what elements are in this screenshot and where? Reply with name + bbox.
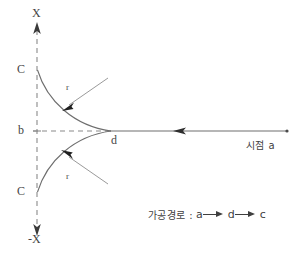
caption-node-d-group: d	[228, 208, 257, 221]
point-label-d: d	[111, 134, 117, 146]
lower-radius-leader-line	[69, 157, 108, 184]
caption-arrow-a-to-d-icon	[203, 211, 225, 219]
figure-canvas: X -X C b C d r r 시점 a 가공경로 : a d c	[0, 0, 304, 258]
caption-prefix: 가공경로 :	[148, 207, 193, 222]
start-point-label: 시점 a	[246, 141, 275, 151]
axis-label-negative-x: -X	[28, 233, 41, 245]
radius-label-lower: r	[66, 172, 69, 181]
caption-arrow-d-to-c-icon	[235, 211, 257, 219]
axis-label-positive-x: X	[32, 7, 41, 19]
upper-radius-leader-line	[69, 78, 108, 105]
lower-arc-path	[38, 131, 112, 192]
lower-radius-arrowhead-icon	[61, 150, 73, 159]
caption-node-d: d	[228, 208, 235, 221]
start-point-dot	[285, 129, 288, 132]
machining-path-caption: 가공경로 : a d c	[148, 207, 266, 222]
upper-arc-path	[38, 70, 112, 131]
caption-node-c: c	[260, 208, 266, 221]
caption-node-a-group: a	[196, 208, 225, 221]
point-label-b: b	[18, 124, 24, 136]
radius-label-upper: r	[66, 83, 69, 92]
point-label-c-upper: C	[17, 63, 25, 75]
caption-node-a: a	[196, 208, 203, 221]
point-label-c-lower: C	[17, 185, 25, 197]
